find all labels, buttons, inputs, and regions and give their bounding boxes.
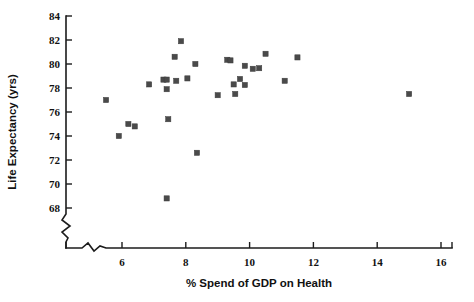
data-point: [231, 82, 236, 87]
data-point: [164, 196, 169, 201]
data-point: [263, 51, 268, 56]
y-tick-label: 82: [49, 34, 61, 46]
x-tick-label: 12: [308, 256, 320, 268]
x-tick-label: 8: [183, 256, 189, 268]
x-tick-label: 14: [372, 256, 384, 268]
x-tick-label: 10: [244, 256, 256, 268]
data-point-group: [103, 39, 411, 201]
y-tick-label: 76: [49, 106, 61, 118]
data-point: [103, 97, 108, 102]
y-tick-group: [66, 16, 72, 208]
data-point: [147, 82, 152, 87]
y-axis: 687072747678808284: [49, 10, 72, 248]
y-axis-title: Life Expectancy (yrs): [6, 74, 18, 190]
y-tick-label: 70: [49, 178, 61, 190]
data-point: [164, 87, 169, 92]
x-tick-label: 6: [119, 256, 125, 268]
data-point: [250, 66, 255, 71]
x-tick-group: [122, 242, 441, 248]
data-point: [257, 66, 262, 71]
data-point: [233, 91, 238, 96]
data-point: [242, 63, 247, 68]
scatter-chart: 687072747678808284 6810121416 % Spend of…: [0, 0, 474, 302]
data-point: [237, 76, 242, 81]
y-tick-label: 80: [49, 58, 61, 70]
data-point: [132, 124, 137, 129]
data-point: [172, 54, 177, 59]
x-tick-label-group: 6810121416: [119, 256, 447, 268]
data-point: [228, 58, 233, 63]
x-axis: 6810121416: [66, 242, 452, 268]
data-point: [242, 82, 247, 87]
data-point: [174, 78, 179, 83]
y-axis-line: [62, 16, 70, 248]
y-tick-label: 84: [49, 10, 61, 22]
data-point: [185, 76, 190, 81]
data-point: [164, 77, 169, 82]
data-point: [194, 150, 199, 155]
x-tick-label: 16: [436, 256, 448, 268]
y-tick-label: 74: [49, 130, 61, 142]
y-tick-label: 78: [49, 82, 61, 94]
y-tick-label-group: 687072747678808284: [49, 10, 61, 214]
y-tick-label: 72: [49, 154, 61, 166]
x-axis-title: % Spend of GDP on Health: [186, 277, 332, 289]
data-point: [166, 117, 171, 122]
y-tick-label: 68: [49, 202, 61, 214]
data-point: [295, 55, 300, 60]
data-point: [215, 93, 220, 98]
data-point: [282, 78, 287, 83]
data-point: [126, 121, 131, 126]
chart-canvas: 687072747678808284 6810121416 % Spend of…: [0, 0, 474, 302]
data-point: [193, 61, 198, 66]
data-point: [178, 39, 183, 44]
data-point: [407, 91, 412, 96]
x-axis-line: [66, 243, 452, 251]
data-point: [116, 133, 121, 138]
